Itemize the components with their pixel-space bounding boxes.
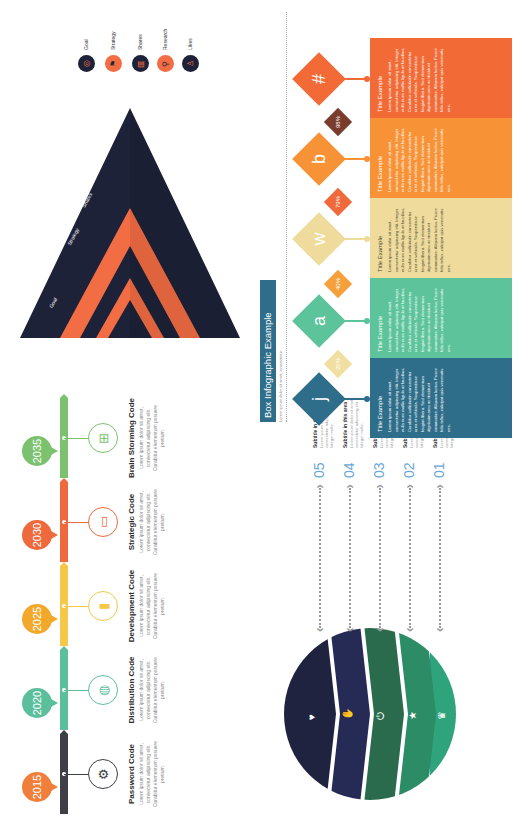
- timeline-stem: [64, 774, 88, 775]
- box-text: Lorem ipsum dolor sit amet, consectetur …: [387, 284, 452, 352]
- globe-icon: ◍: [88, 675, 118, 705]
- legend-item-research: ⚲ Research: [157, 10, 177, 90]
- box-text: Lorem ipsum dolor sit amet, consectetur …: [387, 204, 452, 272]
- stem: [338, 320, 366, 322]
- timeline-stem: [64, 606, 88, 607]
- hierarchy-icon: ⊞: [88, 423, 118, 453]
- dotted-double-arrow: [379, 488, 381, 628]
- share-icon: ▥: [132, 55, 149, 72]
- timeline-section: 2015 ⚙ Password Code Lorem ipsum dolor s…: [0, 400, 260, 818]
- like-icon: ♙: [182, 55, 199, 72]
- star-icon: ★: [407, 711, 418, 720]
- box-title: Title Example: [377, 284, 383, 352]
- legend-item-likes: ♙ Likes: [182, 10, 202, 90]
- step-row-02: 02 Subtitle in this area Lorem ipsum dol…: [400, 418, 420, 628]
- step-row-01: 01 Subtitle in this area Lorem ipsum dol…: [430, 418, 450, 628]
- step-number: 03: [371, 462, 387, 478]
- box-text: Lorem ipsum dolor sit amet, consectetur …: [387, 124, 452, 192]
- step-number: 02: [401, 462, 417, 478]
- percent-badge: 20%: [324, 350, 352, 378]
- stem: [338, 158, 366, 160]
- legend-item-strategy: ⚑ Strategy: [105, 10, 125, 90]
- percent-value: 40%: [328, 274, 348, 294]
- monitor-icon: ▭: [88, 507, 118, 537]
- timeline-desc: Lorem ipsum dolor sit amet, consectetur …: [138, 486, 166, 558]
- timeline-title: Strategic Code: [127, 480, 136, 564]
- box-title: Title Example: [377, 364, 383, 432]
- percent-badge: 98%: [324, 108, 352, 136]
- timeline-stem: [64, 438, 88, 439]
- timeline-title: Password Code: [127, 732, 136, 816]
- timeline-item-2035: 2035 ⊞ Brain Storming Code Lorem ipsum d…: [0, 396, 260, 480]
- timeline-title: Brain Storming Code: [127, 396, 136, 480]
- trophy-icon: ♛: [436, 711, 447, 720]
- timeline-item-2015: 2015 ⚙ Password Code Lorem ipsum dolor s…: [0, 732, 260, 816]
- content-box-5: Title Example Lorem ipsum dolor sit amet…: [370, 38, 512, 118]
- timeline-desc: Lorem ipsum dolor sit amet, consectetur …: [138, 402, 166, 474]
- content-box-4: Title Example Lorem ipsum dolor sit amet…: [370, 118, 512, 198]
- circle-steps-section: ♛ ★ ⏻ ✋ ♥ 01 Subtitle in this area Lorem…: [270, 418, 480, 818]
- diamond-letter: j: [300, 380, 338, 418]
- timeline-desc: Lorem ipsum dolor sit amet, consectetur …: [138, 570, 166, 642]
- legend-label: Goal: [83, 39, 89, 50]
- diamond-letter: #: [300, 60, 338, 98]
- legend-item-goal: ◎ Goal: [78, 10, 98, 90]
- strategy-icon: ⚑: [105, 55, 122, 72]
- dotted-double-arrow: [439, 488, 441, 628]
- search-icon: ⚲: [157, 55, 174, 72]
- pyramid-chart: Likes Research Shares Strategy Goal: [10, 98, 250, 358]
- timeline-item-2020: 2020 ◍ Distribution Code Lorem ipsum dol…: [0, 648, 260, 732]
- section-subtitle: Lorem ipsum dolor sit amet, consectetur: [278, 351, 283, 422]
- timeline-stem: [64, 690, 88, 691]
- step-row-03: 03 Subtitle in this area Lorem ipsum dol…: [370, 418, 390, 628]
- box-text: Lorem ipsum dolor sit amet, consectetur …: [387, 44, 452, 112]
- infographic-page: 2015 ⚙ Password Code Lorem ipsum dolor s…: [0, 0, 528, 818]
- legend-label: Likes: [187, 38, 193, 50]
- stem: [338, 398, 366, 400]
- timeline-desc: Lorem ipsum dolor sit amet, consectetur …: [138, 738, 166, 810]
- box-text: Lorem ipsum dolor sit amet, consectetur …: [387, 364, 452, 432]
- legend-label: Shares: [137, 34, 143, 50]
- step-number: 01: [431, 462, 447, 478]
- year-badge: 2015: [22, 772, 52, 802]
- legend-label: Research: [162, 29, 168, 50]
- heart-icon: ♥: [306, 714, 317, 720]
- timeline-title: Development Code: [127, 564, 136, 648]
- dotted-double-arrow: [409, 488, 411, 628]
- diamond-letter: a: [300, 302, 338, 340]
- stem: [338, 238, 366, 240]
- step-number: 04: [341, 462, 357, 478]
- diamond-letter: b: [300, 140, 338, 178]
- box-title: Title Example: [377, 44, 383, 112]
- dotted-double-arrow: [349, 488, 351, 628]
- timeline-stem: [64, 522, 88, 523]
- diamond-letter: w: [300, 220, 338, 258]
- power-icon: ⏻: [375, 712, 387, 720]
- step-row-04: 04 Subtitle in this area Lorem ipsum dol…: [340, 418, 360, 628]
- step-row-05: 05 Subtitle in this area Lorem ipsum dol…: [310, 418, 330, 628]
- box-title: Title Example: [377, 124, 383, 192]
- step-number: 05: [311, 462, 327, 478]
- target-icon: ◎: [78, 55, 95, 72]
- legend-label: Strategy: [110, 31, 116, 50]
- percent-badge: 40%: [324, 270, 352, 298]
- pyramid-legend: ♙ Likes ⚲ Research ▥ Shares ⚑ Strategy ◎…: [70, 10, 220, 90]
- dotted-divider: [286, 12, 287, 422]
- year-badge: 2030: [22, 520, 52, 550]
- chart-icon: ▮: [88, 591, 118, 621]
- year-badge: 2020: [22, 688, 52, 718]
- section-title: Box Infographic Example: [260, 280, 276, 422]
- dotted-double-arrow: [319, 488, 321, 628]
- percent-value: 79%: [328, 192, 348, 212]
- timeline-item-2030: 2030 ▭ Strategic Code Lorem ipsum dolor …: [0, 480, 260, 564]
- content-box-1: Title Example Lorem ipsum dolor sit amet…: [370, 358, 512, 438]
- box-title: Title Example: [377, 204, 383, 272]
- year-badge: 2025: [22, 604, 52, 634]
- year-badge: 2035: [22, 436, 52, 466]
- timeline-item-2025: 2025 ▮ Development Code Lorem ipsum dolo…: [0, 564, 260, 648]
- pyramid-graphic: [10, 98, 250, 358]
- stem: [338, 78, 366, 80]
- thumbs-up-icon: ✋: [342, 708, 353, 720]
- legend-item-shares: ▥ Shares: [132, 10, 152, 90]
- percent-badge: 79%: [324, 188, 352, 216]
